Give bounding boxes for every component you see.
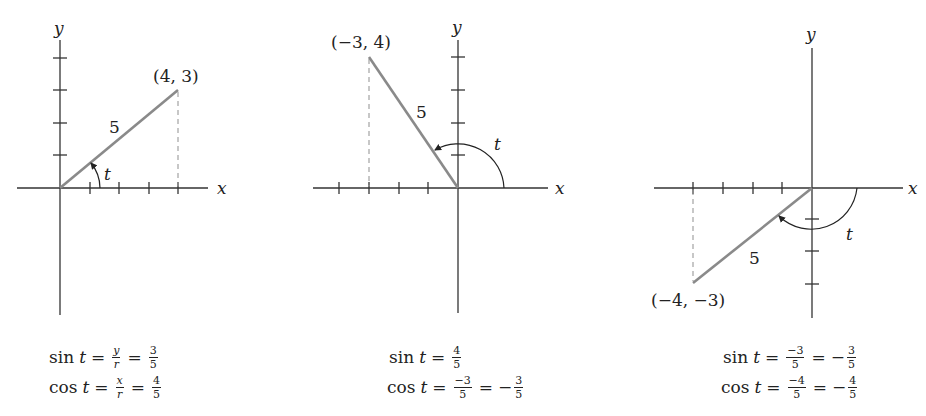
y-axis-label: y bbox=[451, 17, 462, 37]
fraction: yr bbox=[112, 345, 120, 370]
equals: = bbox=[766, 379, 780, 396]
point-label: (−4, −3) bbox=[651, 290, 725, 310]
panel-1-sin-equation: sin t = yr = 35 bbox=[49, 345, 160, 370]
angle-arc bbox=[91, 163, 100, 188]
panel-2-sin-equation: sin t = 45 bbox=[389, 345, 463, 370]
fraction: xr bbox=[116, 375, 124, 400]
equals: = bbox=[813, 379, 827, 396]
equals: = bbox=[811, 349, 825, 366]
fraction: 35 bbox=[847, 345, 856, 370]
variable: t bbox=[753, 349, 760, 366]
panel-2: y x t 5 (−3, 4) bbox=[313, 17, 565, 313]
panel-3-sin-equation: sin t = −35 = − 35 bbox=[723, 345, 858, 370]
fraction: −35 bbox=[786, 345, 804, 370]
equals: = bbox=[765, 349, 779, 366]
fraction: 45 bbox=[848, 375, 857, 400]
equals: = bbox=[127, 349, 141, 366]
equals: = bbox=[432, 379, 446, 396]
fraction: 45 bbox=[452, 345, 461, 370]
radius-segment bbox=[369, 57, 458, 188]
equals: = bbox=[479, 379, 493, 396]
fn-name: sin bbox=[723, 349, 748, 366]
fn-name: sin bbox=[49, 349, 74, 366]
angle-label: t bbox=[104, 164, 111, 184]
minus-sign: − bbox=[832, 379, 846, 396]
variable: t bbox=[420, 379, 427, 396]
fn-name: sin bbox=[389, 349, 414, 366]
panel-3: y x t 5 (−4, −3) bbox=[651, 24, 918, 318]
fraction: 45 bbox=[152, 375, 161, 400]
minus-sign: − bbox=[498, 379, 512, 396]
panel-1: y x t 5 (4, 3) bbox=[17, 18, 227, 315]
x-axis-label: x bbox=[555, 178, 565, 198]
equals: = bbox=[131, 379, 145, 396]
fraction: −45 bbox=[788, 375, 806, 400]
radius-label: 5 bbox=[749, 248, 760, 268]
point-label: (4, 3) bbox=[153, 66, 199, 86]
fraction: −35 bbox=[454, 375, 472, 400]
variable: t bbox=[419, 349, 426, 366]
x-axis-label: x bbox=[217, 178, 227, 198]
equals: = bbox=[91, 349, 105, 366]
equals: = bbox=[94, 379, 108, 396]
panel-1-cos-equation: cos t = xr = 45 bbox=[49, 375, 163, 400]
fraction: 35 bbox=[149, 345, 158, 370]
x-axis-label: x bbox=[908, 178, 918, 198]
fn-name: cos bbox=[721, 379, 749, 396]
fn-name: cos bbox=[49, 379, 77, 396]
y-axis-label: y bbox=[805, 24, 816, 44]
angle-label: t bbox=[494, 134, 501, 154]
equals: = bbox=[431, 349, 445, 366]
radius-segment bbox=[693, 188, 812, 283]
variable: t bbox=[82, 379, 89, 396]
y-axis-label: y bbox=[53, 18, 64, 38]
panel-2-cos-equation: cos t = −35 = − 35 bbox=[387, 375, 525, 400]
panel-3-cos-equation: cos t = −45 = − 45 bbox=[721, 375, 859, 400]
fn-name: cos bbox=[387, 379, 415, 396]
radius-label: 5 bbox=[109, 117, 120, 137]
minus-sign: − bbox=[831, 349, 845, 366]
radius-label: 5 bbox=[416, 102, 427, 122]
variable: t bbox=[754, 379, 761, 396]
angle-label: t bbox=[846, 224, 853, 244]
radius-segment bbox=[60, 90, 178, 188]
variable: t bbox=[79, 349, 86, 366]
point-label: (−3, 4) bbox=[331, 32, 391, 52]
fraction: 35 bbox=[514, 375, 523, 400]
